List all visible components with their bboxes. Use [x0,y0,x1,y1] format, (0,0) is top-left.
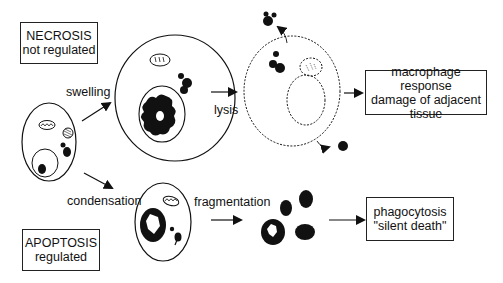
apoptosis-outcome-line2: "silent death" [374,219,447,233]
necrosis-label-box: NECROSIS not regulated [20,22,98,64]
apoptosis-title: APOPTOSIS [25,236,97,250]
fragmentation-label: fragmentation [194,195,270,209]
necrosis-outcome-line1: macrophage response [366,65,486,93]
swelling-arrow [82,103,110,121]
necrosis-outcome-line2: damage of adjacent [371,93,481,107]
necrosis-outcome-box: macrophage response damage of adjacent t… [365,70,487,115]
condensed-cell [135,183,191,261]
apoptosis-subtitle: regulated [35,250,87,264]
lysed-cell [244,12,348,152]
lysis-label: lysis [214,103,238,117]
swelling-label: swelling [66,85,110,99]
apoptosis-outcome-box: phagocytosis "silent death" [366,197,454,241]
apoptosis-label-box: APOPTOSIS regulated [22,229,100,271]
condensation-arrow [84,173,112,188]
condensation-label: condensation [67,194,141,208]
necrosis-subtitle: not regulated [23,43,96,57]
apoptosis-outcome-line1: phagocytosis [374,205,447,219]
necrosis-title: NECROSIS [26,29,91,43]
normal-cell [22,103,76,181]
swollen-cell [115,35,235,161]
necrosis-outcome-line3: tissue [410,107,443,121]
